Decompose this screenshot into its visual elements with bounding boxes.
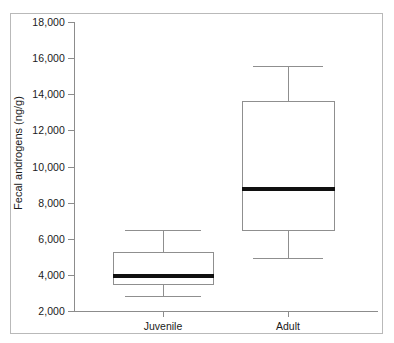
whisker-upper: [163, 230, 164, 252]
x-tick-mark: [163, 311, 164, 317]
y-tick-label: 16,000: [32, 52, 65, 64]
whisker-upper: [288, 66, 289, 101]
y-tick-mark: [68, 58, 74, 59]
median-line: [242, 187, 335, 191]
y-tick-mark: [68, 275, 74, 276]
box-iqr: [242, 101, 335, 231]
y-tick-mark: [68, 239, 74, 240]
x-tick-label-adult: Adult: [238, 320, 338, 332]
y-tick-mark: [68, 94, 74, 95]
y-tick-label: 6,000: [38, 233, 65, 245]
y-tick-label: 12,000: [32, 124, 65, 136]
y-tick-label: 4,000: [38, 269, 65, 281]
y-tick-mark: [68, 203, 74, 204]
y-tick-mark: [68, 311, 74, 312]
x-axis-line: [74, 311, 378, 312]
y-tick-label: 10,000: [32, 161, 65, 173]
median-line: [113, 274, 214, 278]
y-tick-mark: [68, 130, 74, 131]
y-tick-mark: [68, 22, 74, 23]
whisker-cap-lower: [125, 296, 201, 297]
whisker-cap-lower: [253, 258, 323, 259]
box-iqr: [113, 252, 214, 285]
box-plot-figure: Fecal androgens (ng/g) 18,000 16,000 14,…: [0, 0, 394, 343]
y-tick-label: 18,000: [32, 16, 65, 28]
whisker-lower: [163, 285, 164, 296]
y-axis-title: Fecal androgens (ng/g): [12, 33, 24, 273]
x-tick-mark: [288, 311, 289, 317]
y-axis-line: [74, 22, 75, 312]
y-tick-label: 8,000: [38, 197, 65, 209]
y-tick-mark: [68, 167, 74, 168]
y-tick-label: 14,000: [32, 88, 65, 100]
y-tick-label: 2,000: [38, 305, 65, 317]
whisker-lower: [288, 231, 289, 258]
x-tick-label-juvenile: Juvenile: [113, 320, 213, 332]
